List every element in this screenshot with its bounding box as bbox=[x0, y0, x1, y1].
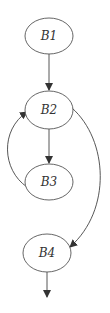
edge-b3-b2-back bbox=[7, 112, 27, 187]
node-b1: B1 bbox=[25, 18, 73, 54]
node-b4-label: B4 bbox=[38, 246, 55, 260]
node-b2-label: B2 bbox=[40, 103, 57, 117]
node-b2: B2 bbox=[25, 91, 73, 129]
control-flow-diagram: B1 B2 B3 B4 bbox=[0, 0, 110, 313]
node-b3-label: B3 bbox=[40, 175, 58, 189]
node-b3: B3 bbox=[25, 164, 73, 200]
node-b1-label: B1 bbox=[40, 29, 57, 43]
edge-b2-b4 bbox=[70, 108, 100, 247]
node-b4: B4 bbox=[23, 234, 71, 272]
